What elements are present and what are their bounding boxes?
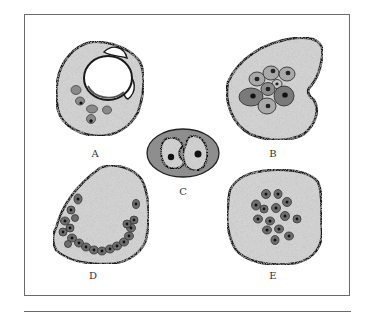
label-b: B	[263, 149, 283, 159]
label-d: D	[83, 271, 103, 281]
cell-a	[56, 42, 143, 136]
cell-b	[227, 38, 323, 140]
bottom-rule	[24, 311, 351, 312]
label-c: C	[173, 187, 193, 197]
label-e: E	[263, 271, 283, 281]
label-a: A	[85, 149, 105, 159]
cell-d	[53, 166, 149, 264]
cell-diagram	[0, 0, 369, 315]
cell-c	[147, 129, 219, 177]
cell-e	[227, 170, 322, 265]
